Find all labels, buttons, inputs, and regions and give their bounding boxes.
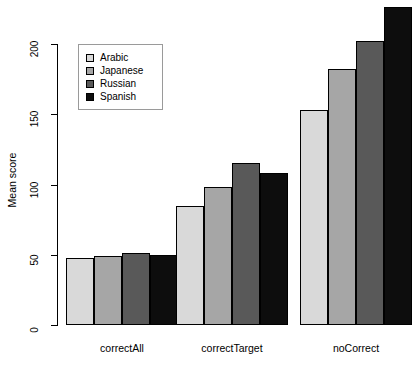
y-axis-title: Mean score: [6, 140, 18, 220]
legend-label: Japanese: [100, 64, 143, 77]
y-tick-mark: [51, 114, 57, 115]
x-axis-label-correctAll: correctAll: [100, 342, 144, 354]
x-axis-label-noCorrect: noCorrect: [333, 342, 379, 354]
legend-swatch-icon: [86, 67, 94, 75]
legend-swatch-icon: [86, 54, 94, 62]
legend-label: Spanish: [100, 90, 136, 103]
y-tick-mark: [51, 255, 57, 256]
bar-noCorrect-Spanish: [384, 7, 412, 325]
legend-item-Spanish: Spanish: [86, 90, 156, 103]
y-tick-label: 0: [22, 319, 48, 331]
bar-correctAll-Arabic: [66, 258, 94, 325]
y-tick-mark: [51, 185, 57, 186]
bar-noCorrect-Russian: [356, 41, 384, 325]
bar-noCorrect-Arabic: [300, 110, 328, 325]
legend-label: Arabic: [100, 51, 128, 64]
y-tick-mark: [51, 44, 57, 45]
chart-legend: ArabicJapaneseRussianSpanish: [78, 44, 163, 110]
x-axis-label-correctTarget: correctTarget: [201, 342, 262, 354]
bar-correctTarget-Russian: [232, 163, 260, 325]
legend-item-Russian: Russian: [86, 77, 156, 90]
y-tick-label: 50: [22, 249, 48, 261]
bar-correctAll-Spanish: [150, 255, 178, 325]
bar-noCorrect-Japanese: [328, 69, 356, 325]
legend-swatch-icon: [86, 93, 94, 101]
bar-correctTarget-Spanish: [260, 173, 288, 325]
y-tick-label: 100: [22, 179, 48, 191]
legend-item-Arabic: Arabic: [86, 51, 156, 64]
y-tick-label: 150: [22, 108, 48, 120]
legend-label: Russian: [100, 77, 136, 90]
y-tick-label: 200: [22, 38, 48, 50]
bar-correctTarget-Japanese: [204, 187, 232, 325]
legend-item-Japanese: Japanese: [86, 64, 156, 77]
y-axis-line: [57, 44, 58, 326]
y-tick-mark: [51, 325, 57, 326]
bar-correctAll-Russian: [122, 253, 150, 325]
bar-correctAll-Japanese: [94, 256, 122, 325]
legend-swatch-icon: [86, 80, 94, 88]
bar-correctTarget-Arabic: [176, 206, 204, 325]
